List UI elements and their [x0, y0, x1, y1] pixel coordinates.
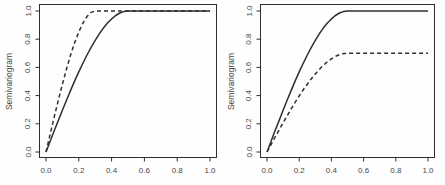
- y-tick-label: 0.2: [24, 118, 33, 130]
- series-line-dashed: [46, 11, 210, 152]
- y-tick-label: 0.6: [24, 61, 33, 73]
- x-tick-label: 1.0: [204, 166, 216, 175]
- x-tick-label: 0.4: [106, 166, 118, 175]
- plot-box: [40, 5, 217, 158]
- y-tick-label: 0.8: [24, 33, 33, 45]
- x-tick-label: 0.6: [358, 166, 370, 175]
- x-tick-label: 0.8: [390, 166, 402, 175]
- semivariogram-plot-right: 0.00.20.40.60.81.00.00.20.40.60.81.0Semi…: [222, 0, 445, 185]
- y-axis-label: Semivariogram: [4, 53, 14, 110]
- y-tick-label: 1.0: [24, 5, 33, 17]
- plot-box: [261, 5, 435, 158]
- y-tick-label: 0.0: [245, 146, 254, 158]
- x-tick-label: 0.8: [172, 166, 184, 175]
- series-line-dashed: [267, 53, 428, 152]
- x-tick-label: 0.4: [326, 166, 338, 175]
- x-tick-label: 1.0: [422, 166, 434, 175]
- x-tick-label: 0.2: [73, 166, 85, 175]
- x-tick-label: 0.0: [40, 166, 52, 175]
- series-line-solid: [267, 11, 428, 152]
- semivariogram-plot-left: 0.00.20.40.60.81.00.00.20.40.60.81.0Semi…: [0, 0, 222, 185]
- x-tick-label: 0.0: [261, 166, 273, 175]
- y-tick-label: 0.4: [245, 89, 254, 101]
- panel-right: 0.00.20.40.60.81.00.00.20.40.60.81.0Semi…: [222, 0, 445, 185]
- panel-left: 0.00.20.40.60.81.00.00.20.40.60.81.0Semi…: [0, 0, 222, 185]
- y-tick-label: 0.8: [245, 33, 254, 45]
- x-tick-label: 0.2: [294, 166, 306, 175]
- y-tick-label: 0.2: [245, 118, 254, 130]
- y-axis-label: Semivariogram: [226, 53, 236, 110]
- y-tick-label: 0.6: [245, 61, 254, 73]
- y-tick-label: 0.0: [24, 146, 33, 158]
- x-tick-label: 0.6: [139, 166, 151, 175]
- semivariogram-figure: 0.00.20.40.60.81.00.00.20.40.60.81.0Semi…: [0, 0, 445, 185]
- series-line-solid: [46, 11, 210, 152]
- y-tick-label: 0.4: [24, 89, 33, 101]
- y-tick-label: 1.0: [245, 5, 254, 17]
